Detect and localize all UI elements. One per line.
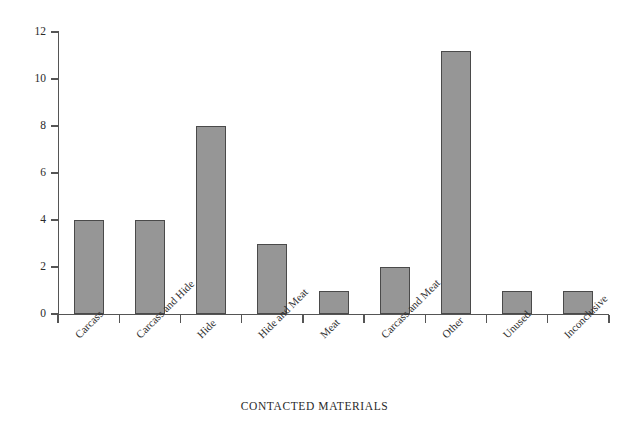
y-axis-tick xyxy=(51,78,59,79)
y-axis-tick-label: 4 xyxy=(10,214,46,226)
y-axis-tick xyxy=(51,219,59,220)
x-axis-tick xyxy=(425,315,426,323)
x-axis-tick xyxy=(57,315,58,323)
y-axis-tick-label: 0 xyxy=(10,308,46,320)
x-axis-tick xyxy=(119,315,120,323)
x-axis-tick-label: Other xyxy=(440,315,465,340)
x-axis-tick xyxy=(363,315,364,323)
x-axis-tick xyxy=(302,315,303,323)
y-axis-tick-label: 12 xyxy=(10,26,46,38)
x-axis-tick xyxy=(608,315,609,323)
x-axis-tick-label: Hide xyxy=(195,317,218,340)
y-axis-tick-label: 8 xyxy=(10,120,46,132)
x-axis-title: CONTACTED MATERIALS xyxy=(0,400,629,412)
bar xyxy=(319,291,349,315)
x-axis-tick xyxy=(547,315,548,323)
bar xyxy=(135,220,165,314)
y-axis-tick-label: 6 xyxy=(10,167,46,179)
y-axis-title: NUMBER xyxy=(2,0,24,22)
y-axis-tick-label: 2 xyxy=(10,261,46,273)
x-axis-tick-label: Meat xyxy=(318,317,342,341)
bar xyxy=(74,220,104,314)
x-axis-tick xyxy=(241,315,242,323)
bar-chart: NUMBER 024681012 CarcassCarcass and Hide… xyxy=(0,0,629,427)
y-axis-tick-label: 10 xyxy=(10,73,46,85)
x-axis-tick xyxy=(180,315,181,323)
y-axis-tick xyxy=(51,172,59,173)
bar xyxy=(441,51,471,314)
x-axis-tick xyxy=(486,315,487,323)
y-axis-tick xyxy=(51,266,59,267)
y-axis-tick xyxy=(51,31,59,32)
y-axis-tick xyxy=(51,125,59,126)
bar xyxy=(196,126,226,314)
